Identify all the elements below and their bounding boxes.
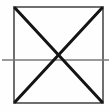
- figure-container: Square with both diagonals and a horizon…: [0, 0, 110, 112]
- geometric-diagram-canvas: [0, 0, 110, 112]
